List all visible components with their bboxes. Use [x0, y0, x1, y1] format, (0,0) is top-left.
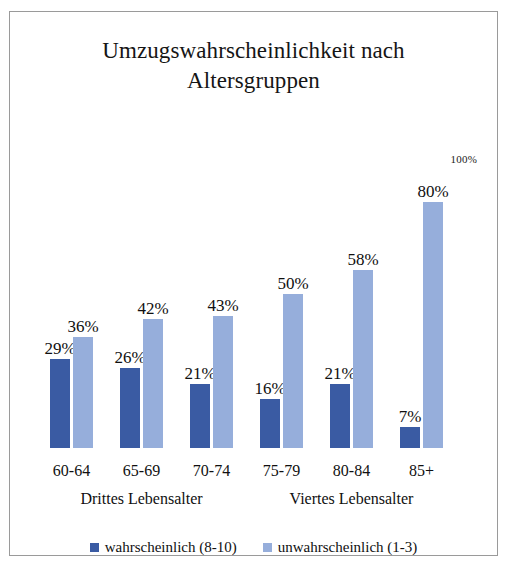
bar-60-64-wahrscheinlich	[50, 359, 70, 448]
legend-item-unwahrscheinlich[interactable]: unwahrscheinlich (1-3)	[263, 539, 418, 556]
bar-value-label-80-84-unwahrscheinlich: 58%	[337, 250, 389, 270]
bar-value-label-65-69-unwahrscheinlich: 42%	[127, 299, 179, 319]
legend-label-wahrscheinlich: wahrscheinlich (8-10)	[105, 539, 237, 556]
bar-value-label-75-79-unwahrscheinlich: 50%	[267, 274, 319, 294]
group-band-label-drittes-lebensalter: Drittes Lebensalter	[62, 490, 222, 508]
legend-swatch-icon-light	[263, 543, 272, 552]
bar-70-74-wahrscheinlich	[190, 384, 210, 448]
category-label-70-74: 70-74	[177, 462, 247, 480]
legend-item-wahrscheinlich[interactable]: wahrscheinlich (8-10)	[90, 539, 237, 556]
legend-label-unwahrscheinlich: unwahrscheinlich (1-3)	[278, 539, 418, 556]
bar-value-label-70-74-unwahrscheinlich: 43%	[197, 296, 249, 316]
category-label-60-64: 60-64	[37, 462, 107, 480]
chart-frame: Umzugswahrscheinlichkeit nach Altersgrup…	[9, 11, 498, 556]
category-label-65-69: 65-69	[107, 462, 177, 480]
bar-70-74-unwahrscheinlich	[213, 316, 233, 448]
bar-60-64-unwahrscheinlich	[73, 337, 93, 448]
chart-legend: wahrscheinlich (8-10) unwahrscheinlich (…	[10, 539, 497, 556]
bar-65-69-wahrscheinlich	[120, 368, 140, 448]
category-label-80-84: 80-84	[317, 462, 387, 480]
bar-75-79-wahrscheinlich	[260, 399, 280, 448]
group-band-label-viertes-lebensalter: Viertes Lebensalter	[272, 490, 432, 508]
bar-75-79-unwahrscheinlich	[283, 294, 303, 448]
bar-value-label-60-64-unwahrscheinlich: 36%	[57, 317, 109, 337]
bar-85+-unwahrscheinlich	[423, 202, 443, 448]
bar-value-label-85+-unwahrscheinlich: 80%	[407, 182, 459, 202]
bar-80-84-wahrscheinlich	[330, 384, 350, 448]
plot-area: 29%36%60-6426%42%65-6921%43%70-7416%50%7…	[10, 12, 497, 555]
bar-80-84-unwahrscheinlich	[353, 270, 373, 448]
bar-85+-wahrscheinlich	[400, 427, 420, 448]
bar-65-69-unwahrscheinlich	[143, 319, 163, 448]
category-label-75-79: 75-79	[247, 462, 317, 480]
legend-swatch-icon-dark	[90, 543, 99, 552]
category-label-85+: 85+	[387, 462, 457, 480]
